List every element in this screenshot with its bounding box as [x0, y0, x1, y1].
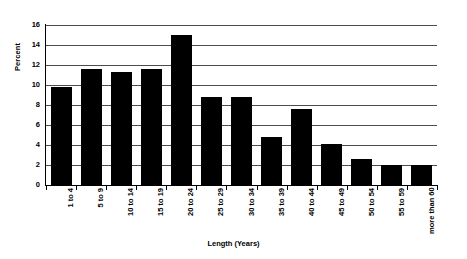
bar: [411, 165, 432, 185]
x-axis-tick-labels: 1 to 45 to 910 to 1415 to 1920 to 2425 t…: [46, 190, 437, 236]
x-tick-label: 20 to 24: [186, 188, 196, 234]
bar: [381, 165, 402, 185]
y-tick-label: 14: [24, 41, 40, 49]
x-axis-title: Length (Years): [0, 239, 467, 249]
bar: [351, 159, 372, 185]
bar: [51, 87, 72, 185]
y-tick-label: 4: [24, 141, 40, 149]
x-tick-label: 45 to 49: [337, 188, 347, 234]
x-tick-label: 50 to 54: [367, 188, 377, 234]
x-tick-label: 1 to 4: [66, 188, 76, 234]
y-axis-tick-labels: 0246810121416: [24, 0, 40, 259]
x-tick: [437, 186, 438, 190]
y-tick-label: 2: [24, 161, 40, 169]
bar: [201, 97, 222, 185]
bar: [81, 69, 102, 185]
bar-chart-figure: Percent 0246810121416 1 to 45 to 910 to …: [0, 0, 467, 259]
x-tick-label: 5 to 9: [96, 188, 106, 234]
x-tick-label: 25 to 29: [216, 188, 226, 234]
bar: [291, 109, 312, 185]
bar: [141, 69, 162, 185]
bar-series: [46, 25, 437, 185]
y-tick-label: 8: [24, 101, 40, 109]
bar: [321, 144, 342, 185]
x-tick-label: 10 to 14: [126, 188, 136, 234]
x-tick-label: 30 to 34: [247, 188, 257, 234]
y-tick-label: 0: [24, 181, 40, 189]
y-tick-label: 12: [24, 61, 40, 69]
bar: [261, 137, 282, 185]
x-tick-label: more than 60: [427, 188, 437, 234]
x-tick-label: 35 to 39: [277, 188, 287, 234]
bar: [171, 35, 192, 185]
x-tick-label: 55 to 59: [397, 188, 407, 234]
y-tick-label: 6: [24, 121, 40, 129]
x-tick-label: 15 to 19: [156, 188, 166, 234]
bar: [231, 97, 252, 185]
bar: [111, 72, 132, 185]
y-tick-label: 16: [24, 21, 40, 29]
plot-area: [46, 25, 437, 185]
y-tick-label: 10: [24, 81, 40, 89]
x-tick-label: 40 to 44: [307, 188, 317, 234]
y-axis-title: Percent: [11, 22, 25, 92]
